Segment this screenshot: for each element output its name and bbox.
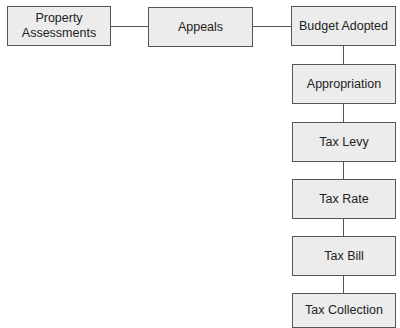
node-label: Assessments [22, 26, 96, 41]
node-tax-rate: Tax Rate [292, 179, 396, 219]
connector-appeals-budget [252, 26, 291, 27]
node-label: Tax Bill [324, 249, 364, 264]
node-label: Tax Collection [305, 303, 383, 318]
connector-appropriation-levy [343, 103, 344, 122]
node-appropriation: Appropriation [292, 64, 396, 104]
node-property-assessments: Property Assessments [7, 6, 111, 46]
connector-budget-appropriation [343, 45, 344, 64]
node-label: Tax Levy [319, 135, 368, 150]
node-label: Property [35, 11, 82, 26]
node-tax-collection: Tax Collection [292, 293, 396, 328]
node-tax-levy: Tax Levy [292, 122, 396, 162]
node-label: Tax Rate [319, 192, 368, 207]
node-label: Appropriation [307, 77, 381, 92]
connector-bill-collection [343, 275, 344, 293]
connector-levy-rate [343, 161, 344, 179]
node-tax-bill: Tax Bill [292, 236, 396, 276]
node-label: Budget Adopted [299, 19, 388, 34]
node-budget-adopted: Budget Adopted [291, 6, 396, 46]
connector-rate-bill [343, 218, 344, 236]
node-label: Appeals [178, 20, 223, 35]
connector-assessments-appeals [110, 26, 148, 27]
node-appeals: Appeals [148, 7, 253, 47]
